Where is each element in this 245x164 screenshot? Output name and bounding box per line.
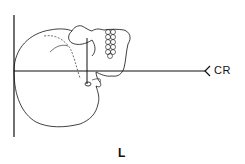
side-marker-label: L <box>118 146 125 160</box>
ear-canal <box>85 82 91 86</box>
skull-positioning-diagram <box>0 0 245 164</box>
sphenoid-dashed <box>44 36 80 78</box>
central-ray-label: CR <box>214 64 231 76</box>
petrous-line <box>50 45 68 52</box>
central-ray-arrowhead <box>205 66 210 76</box>
skull-outline <box>14 26 130 127</box>
orbit-outline <box>69 31 95 56</box>
teeth <box>106 30 116 59</box>
